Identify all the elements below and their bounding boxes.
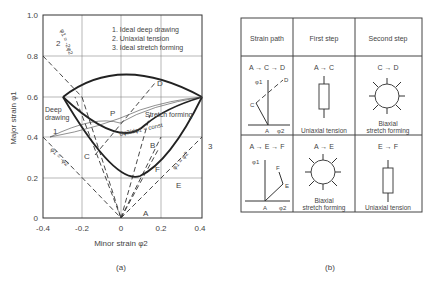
svg-text:A → C → D: A → C → D — [249, 64, 285, 71]
svg-text:B: B — [150, 141, 155, 150]
svg-text:stretch forming: stretch forming — [303, 204, 346, 212]
forming-limit-plot: 0 0.2 0.4 0.6 0.8 1.0 -0.4 -0.2 0 0.2 0.… — [9, 11, 213, 272]
header-first-step: First step — [310, 35, 339, 43]
svg-text:A → E → F: A → E → F — [249, 143, 284, 150]
svg-text:φ1: φ1 — [255, 79, 263, 85]
svg-text:F: F — [276, 165, 280, 171]
svg-text:0.8: 0.8 — [27, 52, 39, 61]
svg-text:E → F: E → F — [378, 143, 398, 150]
y-ticks: 0 0.2 0.4 0.6 0.8 1.0 — [27, 11, 39, 223]
row-a-e-f: A → E → F φ1 φ2 A E F A → E Biaxial stre… — [245, 143, 411, 212]
svg-text:A: A — [263, 205, 267, 211]
svg-text:0.4: 0.4 — [27, 133, 39, 142]
caption-a: (a) — [116, 263, 126, 272]
svg-text:0.6: 0.6 — [27, 93, 39, 102]
svg-text:0.4: 0.4 — [194, 224, 206, 233]
svg-text:φ1 = -2φ2: φ1 = -2φ2 — [59, 28, 74, 56]
svg-text:F: F — [155, 165, 160, 174]
svg-text:3: 3 — [208, 142, 213, 151]
svg-text:P: P — [110, 109, 115, 118]
svg-text:φ1: φ1 — [252, 159, 260, 165]
svg-text:3. Ideal stretch forming: 3. Ideal stretch forming — [112, 44, 183, 52]
svg-text:2. Uniaxial tension: 2. Uniaxial tension — [112, 35, 169, 42]
svg-text:2: 2 — [56, 39, 61, 48]
header-second-step: Second step — [369, 35, 408, 43]
svg-text:E: E — [176, 181, 181, 190]
svg-text:Biaxial: Biaxial — [314, 197, 334, 204]
svg-text:-0.4: -0.4 — [36, 224, 50, 233]
svg-text:stretch forming: stretch forming — [367, 127, 410, 135]
svg-text:0: 0 — [34, 214, 39, 223]
svg-text:φ2: φ2 — [279, 205, 287, 211]
svg-text:C: C — [250, 102, 255, 108]
svg-text:dφ2/dφ1 ≈ const: dφ2/dφ1 ≈ const — [119, 122, 163, 137]
svg-text:A → C: A → C — [314, 64, 334, 71]
svg-text:-0.2: -0.2 — [75, 224, 89, 233]
svg-text:Biaxial: Biaxial — [378, 120, 398, 127]
row-a-c-d: A → C → D φ1 φ2 A C D A → C Uniaxial ten… — [248, 64, 410, 135]
svg-text:φ2: φ2 — [277, 128, 285, 134]
svg-text:1. Ideal deep drawing: 1. Ideal deep drawing — [112, 26, 179, 34]
svg-text:1.0: 1.0 — [27, 11, 39, 20]
svg-text:Stretch forming: Stretch forming — [145, 111, 193, 119]
svg-text:A: A — [265, 128, 269, 134]
svg-text:E: E — [285, 183, 289, 189]
svg-text:Deep: Deep — [45, 106, 62, 114]
svg-text:φ1 = -φ2: φ1 = -φ2 — [49, 146, 70, 167]
legend: 1. Ideal deep drawing 2. Uniaxial tensio… — [112, 26, 183, 52]
svg-text:C: C — [84, 152, 90, 161]
svg-text:1: 1 — [53, 127, 58, 136]
svg-text:C → D: C → D — [378, 64, 399, 71]
svg-text:D: D — [157, 79, 163, 88]
strain-path-table: Strain path First step Second step A → C… — [241, 18, 422, 272]
caption-b: (b) — [325, 263, 335, 272]
header-strain-path: Strain path — [250, 35, 284, 43]
svg-text:Uniaxial tension: Uniaxial tension — [365, 204, 411, 211]
svg-text:drawing: drawing — [45, 114, 70, 122]
svg-text:0.2: 0.2 — [27, 174, 39, 183]
svg-text:A → E: A → E — [314, 143, 334, 150]
x-axis-label: Minor strain φ2 — [94, 239, 148, 248]
svg-text:0.2: 0.2 — [155, 224, 167, 233]
y-axis-label: Major strain φ1 — [9, 91, 18, 145]
svg-text:φ1 = φ2: φ1 = φ2 — [171, 150, 190, 171]
x-ticks: -0.4 -0.2 0 0.2 0.4 — [36, 224, 206, 233]
svg-text:Uniaxial tension: Uniaxial tension — [301, 127, 347, 134]
svg-text:A: A — [143, 209, 149, 218]
svg-text:0: 0 — [119, 224, 124, 233]
svg-text:D: D — [284, 77, 289, 83]
figure-canvas: 0 0.2 0.4 0.6 0.8 1.0 -0.4 -0.2 0 0.2 0.… — [0, 0, 429, 282]
